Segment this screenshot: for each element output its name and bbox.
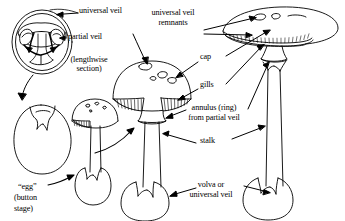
label-gills: gills (200, 81, 214, 90)
label-partial-veil: partial veil (68, 33, 102, 42)
arrow-annulus-right (248, 62, 269, 109)
young-mushroom-drawing (72, 99, 118, 205)
label-annulus-line2: from partial veil (177, 114, 251, 123)
arrow-section-to-egg (18, 75, 33, 100)
diagram-artwork (0, 0, 345, 221)
mushroom-anatomy-diagram: universal veil partial veil (lengthwise … (0, 0, 345, 221)
arrow-universal-veil (57, 12, 78, 17)
arrow-gills-right (226, 45, 264, 85)
egg-button-drawing (14, 105, 71, 174)
label-annulus-line1: annulus (ring) (177, 104, 251, 113)
label-uv-remnants-line1: universal veil (133, 9, 213, 18)
label-egg-line2: (button (14, 194, 37, 203)
label-lengthwise-section-line2: section) (58, 65, 120, 74)
arrow-stalk-center (163, 131, 196, 143)
arrow-stalk-right (232, 125, 265, 139)
label-cap: cap (200, 53, 211, 62)
label-uv-remnants-line2: remnants (133, 19, 213, 28)
label-volva-line1: volva or (178, 181, 244, 190)
arrow-egg-to-young (48, 175, 74, 185)
label-egg-line3: stage) (14, 205, 33, 214)
label-stalk: stalk (200, 137, 215, 146)
label-volva-line2: universal veil (173, 191, 249, 200)
arrow-gills-center (178, 89, 198, 100)
label-universal-veil: universal veil (79, 7, 122, 16)
arrow-uv-remnants-center (133, 34, 148, 64)
label-egg-line1: “egg” (18, 183, 37, 192)
